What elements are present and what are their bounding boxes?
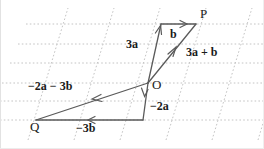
vector-minus-2a-arrow	[142, 83, 149, 120]
point-label-p: P	[200, 7, 207, 20]
vector-label-minus-2a-minus-3b: −2a − 3b	[28, 80, 72, 92]
vector-label-minus-3b: −3b	[76, 122, 96, 134]
vector-label-3a-plus-b: 3a + b	[186, 46, 218, 58]
vector-b-arrow	[161, 21, 196, 28]
vector-diagram-figure: P O Q b 3a 3a + b −2a −3b −2a − 3b	[0, 0, 264, 149]
vector-arrows-layer	[0, 0, 264, 149]
vector-label-minus-2a: −2a	[150, 100, 169, 112]
point-label-o: O	[152, 78, 161, 91]
point-label-q: Q	[30, 120, 39, 133]
vector-label-3a: 3a	[126, 38, 138, 50]
vector-label-b: b	[170, 28, 177, 40]
